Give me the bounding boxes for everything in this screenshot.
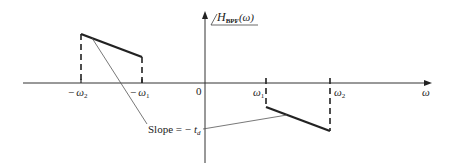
- x-axis-label: ω: [422, 86, 430, 98]
- tick-omega1: ω1: [253, 86, 265, 100]
- y-axis: [202, 11, 208, 163]
- svg-text:HBPF(ω): HBPF(ω): [216, 10, 254, 25]
- tick-omega2: ω2: [334, 86, 346, 100]
- x-axis: [23, 80, 432, 86]
- left-phase-segment: [81, 34, 142, 83]
- function-label: HBPF(ω): [211, 10, 258, 25]
- tick-neg-omega1: −ω1: [130, 86, 150, 100]
- function-label-argument: (ω): [239, 11, 254, 24]
- slope-annotation: Slope = −td: [148, 123, 201, 137]
- tick-origin: 0: [196, 85, 202, 97]
- right-phase-segment: [266, 78, 330, 131]
- function-label-subscript: BPF: [226, 17, 239, 25]
- y-axis-arrow-icon: [202, 11, 208, 19]
- tick-neg-omega2: −ω2: [68, 86, 88, 100]
- bandpass-phase-diagram: HBPF(ω) −ω2 −ω1 0 ω1 ω2 ω Slope = −td: [0, 0, 453, 166]
